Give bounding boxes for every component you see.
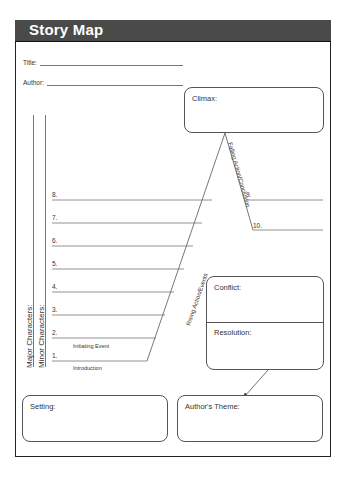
- climax-box[interactable]: Climax:: [184, 87, 324, 133]
- setting-box[interactable]: Setting:: [22, 395, 168, 442]
- authors-theme-label: Author's Theme:: [185, 402, 240, 411]
- conflict-resolution-box: Conflict: Resolution:: [206, 276, 324, 370]
- falling-action-label: Falling Action/Conclusion: [227, 142, 251, 208]
- arrow-line: [245, 370, 268, 396]
- conflict-label: Conflict:: [214, 283, 241, 292]
- conflict-resolution-divider: [207, 322, 323, 323]
- climax-label: Climax:: [192, 94, 217, 103]
- resolution-label: Resolution:: [214, 328, 252, 337]
- setting-label: Setting:: [30, 402, 55, 411]
- authors-theme-box[interactable]: Author's Theme:: [177, 395, 323, 442]
